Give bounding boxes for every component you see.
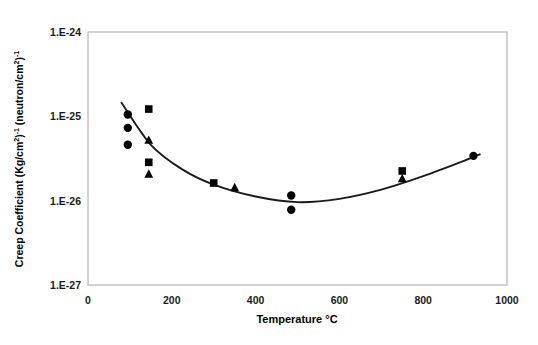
y-axis-title-part-a: Creep Coefficient (Kg/cm xyxy=(13,142,25,267)
data-point-circle xyxy=(469,152,477,160)
data-point-square xyxy=(145,105,153,113)
fit-curve xyxy=(122,103,480,203)
data-point-circle xyxy=(287,191,295,199)
x-tick-label: 800 xyxy=(414,294,432,306)
y-tick-label: 1.E-26 xyxy=(50,195,81,207)
svg-text:Creep Coefficient (Kg/cm2)-1 (: Creep Coefficient (Kg/cm2)-1 (neutron/cm… xyxy=(13,51,25,267)
y-tick-label: 1.E-25 xyxy=(50,110,81,122)
data-point-square xyxy=(398,167,406,175)
data-point-triangle xyxy=(144,169,153,177)
data-point-triangle xyxy=(230,183,239,191)
x-tick-label: 200 xyxy=(163,294,181,306)
y-axis-title-part-c: (neutron/cm xyxy=(13,64,25,128)
plot-frame xyxy=(88,32,507,285)
data-point-circle xyxy=(287,206,295,214)
y-tick-label: 1.E-27 xyxy=(50,279,81,291)
data-point-square xyxy=(145,159,153,167)
data-point-square xyxy=(210,179,218,187)
data-point-circle xyxy=(124,141,132,149)
chart-canvas: 1.E-241.E-251.E-261.E-27 020040060080010… xyxy=(0,0,538,345)
x-axis-ticks: 02004006008001000 xyxy=(85,294,519,306)
x-axis-title: Temperature °C xyxy=(256,313,337,325)
data-markers xyxy=(124,105,478,214)
y-axis-title: Creep Coefficient (Kg/cm2)-1 (neutron/cm… xyxy=(13,51,25,267)
data-point-triangle xyxy=(398,174,407,182)
x-tick-label: 600 xyxy=(331,294,349,306)
x-tick-label: 1000 xyxy=(495,294,519,306)
data-point-circle xyxy=(124,110,132,118)
x-tick-label: 0 xyxy=(85,294,91,306)
data-point-circle xyxy=(124,124,132,132)
x-tick-label: 400 xyxy=(247,294,265,306)
y-axis-ticks: 1.E-241.E-251.E-261.E-27 xyxy=(50,26,81,291)
y-tick-label: 1.E-24 xyxy=(50,26,81,38)
creep-coefficient-chart: 1.E-241.E-251.E-261.E-27 020040060080010… xyxy=(0,0,538,345)
y-axis-title-sup-4: -1 xyxy=(13,51,20,57)
